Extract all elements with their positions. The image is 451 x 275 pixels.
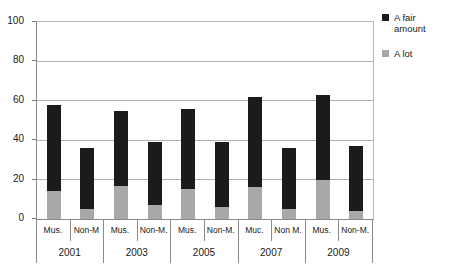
- year-group-divider: [238, 219, 239, 263]
- bar-segment-a-lot: [80, 209, 94, 219]
- year-label: 2001: [36, 241, 103, 263]
- category-label: Mus.: [103, 219, 137, 241]
- bar-nonm-2005: [215, 142, 229, 219]
- series-divider: [338, 219, 339, 241]
- bar-segment-a-lot: [248, 187, 262, 219]
- year-group-divider: [305, 219, 306, 263]
- legend-label: A fair: [394, 12, 451, 23]
- bar-segment-a-fair-amount: [148, 142, 162, 205]
- bar-segment-a-fair-amount: [248, 97, 262, 188]
- bar-mus-2009: [316, 95, 330, 219]
- y-tick-label: 0: [18, 213, 24, 223]
- series-divider: [70, 219, 71, 241]
- bar-mus-2001: [47, 105, 61, 219]
- dark-square-icon: [382, 14, 389, 21]
- y-tick-label: 60: [13, 95, 24, 105]
- bar-segment-a-fair-amount: [349, 146, 363, 211]
- y-axis: 100 80 60 40 20 0: [0, 0, 32, 275]
- y-tick-label: 20: [13, 174, 24, 184]
- bar-segment-a-lot: [282, 209, 296, 219]
- year-group-divider: [103, 219, 104, 263]
- category-label: Mus.: [36, 219, 70, 241]
- category-label: Non-M.: [338, 219, 372, 241]
- bars-layer: [37, 22, 373, 219]
- series-divider: [271, 219, 272, 241]
- series-divider: [137, 219, 138, 241]
- year-label-row: 20012003200520072009: [36, 241, 373, 263]
- year-group-divider: [170, 219, 171, 263]
- year-label: 2009: [305, 241, 372, 263]
- year-label: 2007: [238, 241, 305, 263]
- y-tick-label: 40: [13, 134, 24, 144]
- series-divider: [204, 219, 205, 241]
- bar-nonm-2007: [282, 148, 296, 219]
- bar-segment-a-lot: [349, 211, 363, 219]
- bar-nonm-2003: [148, 142, 162, 219]
- category-label: Mus.: [170, 219, 204, 241]
- bar-muc-2007: [248, 97, 262, 219]
- bar-segment-a-lot: [114, 186, 128, 219]
- bar-segment-a-fair-amount: [316, 95, 330, 180]
- bar-segment-a-lot: [181, 189, 195, 219]
- bar-segment-a-fair-amount: [215, 142, 229, 207]
- bar-segment-a-lot: [148, 205, 162, 219]
- legend-label: A lot: [394, 48, 451, 59]
- bar-mus-2003: [114, 111, 128, 219]
- year-group-divider: [372, 219, 373, 263]
- year-group-divider: [36, 219, 37, 263]
- category-label: Non-M.: [137, 219, 171, 241]
- category-axis: Mus.Non-MMus.Non-M.Mus.Non-M.Muc.Non M.M…: [36, 219, 373, 265]
- y-tick-label: 80: [13, 55, 24, 65]
- y-tick-label: 100: [7, 16, 24, 26]
- legend-label-cont: amount: [394, 23, 451, 34]
- gray-square-icon: [382, 50, 389, 57]
- bar-segment-a-fair-amount: [114, 111, 128, 186]
- bar-mus-2005: [181, 109, 195, 219]
- bar-segment-a-fair-amount: [47, 105, 61, 192]
- category-label: Non-M.: [204, 219, 238, 241]
- category-label: Mus.: [305, 219, 339, 241]
- legend-item-a-fair-amount: A fair amount: [382, 12, 451, 34]
- bar-segment-a-lot: [47, 191, 61, 219]
- bar-segment-a-fair-amount: [282, 148, 296, 209]
- category-label: Non M.: [271, 219, 305, 241]
- chart-container: 100 80 60 40 20 0 Mus.Non-MMus.Non-M.Mus…: [0, 0, 451, 275]
- bar-nonm-2009: [349, 146, 363, 219]
- plot-area: [36, 21, 374, 220]
- legend-item-a-lot: A lot: [382, 48, 451, 59]
- bar-segment-a-fair-amount: [181, 109, 195, 190]
- legend: A fair amount A lot: [382, 12, 451, 73]
- year-label: 2003: [103, 241, 170, 263]
- bar-segment-a-fair-amount: [80, 148, 94, 209]
- category-label: Muc.: [238, 219, 272, 241]
- bar-segment-a-lot: [316, 180, 330, 219]
- category-label: Non-M: [70, 219, 104, 241]
- year-label: 2005: [170, 241, 237, 263]
- bar-nonm-2001: [80, 148, 94, 219]
- bar-segment-a-lot: [215, 207, 229, 219]
